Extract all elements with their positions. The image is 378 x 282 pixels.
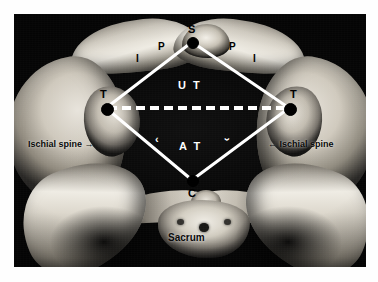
solid-diamond-edges xyxy=(106,42,289,180)
arrow-left-icon: ← xyxy=(268,139,277,149)
annotation-ischial-spine-left-text: Ischial spine xyxy=(28,139,82,149)
annotation-ischial-spine-right: ← Ischial spine xyxy=(268,140,334,149)
edge-s-to-t-left xyxy=(106,42,192,108)
bone-label-pubic-ramus-left: P xyxy=(158,42,165,52)
angle-mark-left-icon: ‹ xyxy=(155,134,159,145)
vertex-dot-tuberosity-right xyxy=(284,103,297,116)
vertex-label-symphysis: S xyxy=(188,24,195,35)
angle-mark-right-icon: ‹ xyxy=(221,138,232,142)
bone-label-ischium-left: I xyxy=(136,54,139,64)
arrow-right-icon: → xyxy=(85,139,94,149)
figure-root: S T T C U T A T P I P I ‹ ‹ Ischial spin… xyxy=(0,0,378,282)
bone-label-ischium-right: I xyxy=(253,54,256,64)
annotation-ischial-spine-left: Ischial spine → xyxy=(28,140,94,149)
vertex-label-tuberosity-left: T xyxy=(100,89,107,100)
bone-label-pubic-ramus-right: P xyxy=(229,42,236,52)
annotation-sacrum: Sacrum xyxy=(168,233,205,243)
vertex-dot-symphysis xyxy=(187,37,199,49)
region-label-upper-triangle: U T xyxy=(178,80,202,91)
vertex-dot-tuberosity-left xyxy=(101,103,114,116)
edge-s-to-t-right xyxy=(192,42,289,108)
annotation-ischial-spine-right-text: Ischial spine xyxy=(280,139,334,149)
region-label-anterior-triangle: A T xyxy=(179,141,202,152)
vertex-label-tuberosity-right: T xyxy=(290,89,297,100)
vertex-label-coccyx: C xyxy=(188,188,196,199)
vertex-dot-coccyx xyxy=(187,175,199,187)
